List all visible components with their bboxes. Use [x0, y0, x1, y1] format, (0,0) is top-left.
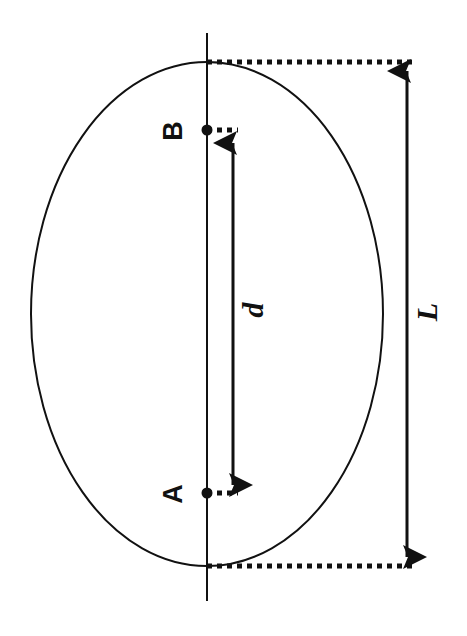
point-label-b: B [160, 116, 190, 146]
diagram-svg [0, 0, 467, 636]
dimension-label-d: d [238, 294, 274, 326]
dimension-label-L: L [412, 296, 448, 328]
point-label-a: A [160, 479, 190, 509]
point-b-marker [202, 125, 213, 136]
point-a-marker [202, 488, 213, 499]
diagram-canvas: B A d L [0, 0, 467, 636]
